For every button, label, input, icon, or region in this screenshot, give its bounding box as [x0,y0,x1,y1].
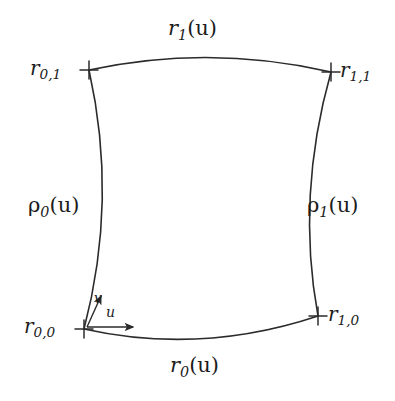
corner-label-top-left-base: r [30,56,40,80]
boundary-label-bottom-subscript: 0 [180,364,189,380]
v-axis-label: v [94,291,102,305]
corner-marker-bottom-left [75,320,93,338]
boundary-label-bottom-arg: (u) [189,353,219,377]
corner-label-bottom-right-base: r [328,302,338,326]
boundary-label-right: ρ1(u) [307,195,358,216]
coons-patch-figure: r1(u) r0(u) ρ0(u) ρ1(u) r0,1 r1,1 r0,0 r… [0,0,395,401]
boundary-label-left-base: ρ [28,193,40,217]
corner-label-bottom-left-subscript: 0,0 [34,324,56,340]
corner-label-top-left: r0,1 [30,58,61,78]
corner-label-top-right-subscript: 1,1 [350,68,372,84]
corner-marker-top-left [80,61,98,79]
boundary-label-top-base: r [168,16,178,40]
corner-label-bottom-right-subscript: 1,0 [338,312,360,328]
boundary-curve-top [89,57,331,72]
corner-label-top-left-subscript: 0,1 [40,66,62,82]
boundary-label-right-arg: (u) [328,193,358,217]
corner-label-top-right: r1,1 [340,60,371,80]
boundary-label-top-subscript: 1 [178,27,187,43]
boundary-label-top-arg: (u) [187,16,217,40]
u-axis-label: u [106,305,115,319]
boundary-label-bottom-base: r [170,353,180,377]
boundary-label-bottom: r0(u) [170,355,219,376]
corner-label-bottom-left-base: r [24,314,34,338]
boundary-label-right-base: ρ [307,193,319,217]
corner-label-top-right-base: r [340,58,350,82]
corner-marker-top-right [322,63,340,81]
boundary-label-left-subscript: 0 [40,204,49,220]
boundary-label-left-arg: (u) [49,193,79,217]
boundary-label-right-subscript: 1 [319,204,328,220]
corner-marker-bottom-right [309,307,327,325]
boundary-label-top: r1(u) [168,18,217,39]
corner-label-bottom-right: r1,0 [328,304,359,324]
boundary-label-left: ρ0(u) [28,195,79,216]
corner-label-bottom-left: r0,0 [24,316,55,336]
